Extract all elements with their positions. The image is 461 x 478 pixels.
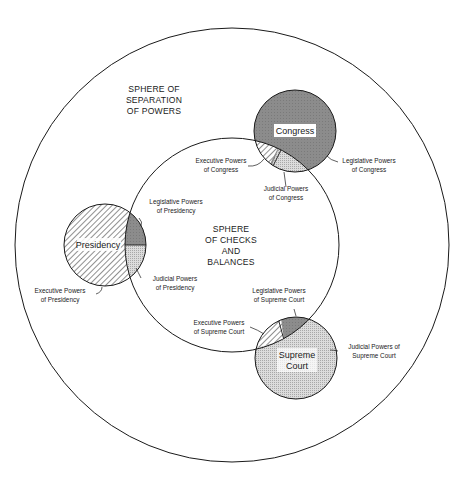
separation-of-powers-diagram: Congress Presidency Supreme Court SPHERE… [0,0,461,478]
label-legislative-powers-of-presidency: Legislative Powers of Presidency [149,198,202,215]
label-legislative-powers-of-supreme-court: Legislative Powers of Supreme Court [252,287,305,304]
svg-text:Legislative Powers: Legislative Powers [252,287,305,295]
svg-text:Executive Powers: Executive Powers [35,287,86,294]
label-executive-powers-of-congress: Executive Powers of Congress [196,157,247,174]
congress-name: Congress [276,126,315,136]
svg-text:AND: AND [222,246,241,256]
outer-sphere-title: SPHERE OF SEPARATION OF POWERS [126,84,182,116]
svg-text:Legislative Powers: Legislative Powers [149,198,202,206]
inner-sphere-title: SPHERE OF CHECKS AND BALANCES [205,224,257,267]
svg-text:Judicial Powers: Judicial Powers [153,275,197,282]
svg-text:of Congress: of Congress [269,194,303,202]
label-executive-powers-of-supreme-court: Executive Powers of Supreme Court [194,319,245,336]
svg-text:SEPARATION: SEPARATION [126,95,182,105]
svg-text:Judicial Powers: Judicial Powers [264,185,308,192]
svg-text:of Presidency: of Presidency [157,207,197,215]
svg-text:OF CHECKS: OF CHECKS [205,235,257,245]
svg-text:of Supreme Court: of Supreme Court [254,296,305,304]
label-legislative-powers-of-congress: Legislative Powers of Congress [342,157,395,174]
svg-text:SPHERE OF: SPHERE OF [128,84,179,94]
svg-text:Executive Powers: Executive Powers [194,319,245,326]
svg-text:Executive Powers: Executive Powers [196,157,247,164]
svg-text:of Supreme Court: of Supreme Court [194,328,245,336]
svg-text:Legislative Powers: Legislative Powers [342,157,395,165]
supreme-court-name-line1: Supreme [279,350,316,360]
label-judicial-powers-of-presidency: Judicial Powers of Presidency [153,275,197,292]
label-executive-powers-of-presidency: Executive Powers of Presidency [35,287,86,304]
supreme-court-name-line2: Court [286,361,309,371]
presidency-name: Presidency [76,240,121,250]
svg-text:of Congress: of Congress [352,166,386,174]
svg-text:Supreme Court: Supreme Court [352,352,396,360]
svg-text:OF POWERS: OF POWERS [127,106,181,116]
label-judicial-powers-of-congress: Judicial Powers of Congress [264,185,308,202]
svg-text:Judicial Powers of: Judicial Powers of [348,343,400,350]
svg-text:of Presidency: of Presidency [41,296,81,304]
svg-text:of Presidency: of Presidency [156,284,196,292]
svg-text:SPHERE: SPHERE [213,224,250,234]
svg-text:of Congress: of Congress [204,166,238,174]
label-judicial-powers-of-supreme-court: Judicial Powers of Supreme Court [348,343,400,360]
svg-text:BALANCES: BALANCES [207,257,255,267]
